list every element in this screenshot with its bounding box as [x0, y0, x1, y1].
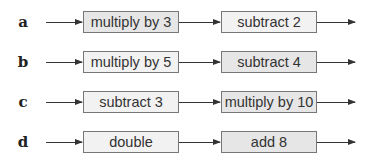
step2-box: multiply by 10 [221, 91, 317, 113]
row-label: c [16, 93, 30, 111]
step2-box: subtract 2 [221, 11, 317, 33]
connector-arrow-icon [179, 22, 220, 23]
input-arrow-icon [46, 102, 82, 103]
output-arrow-icon [317, 62, 355, 63]
output-arrow-icon [317, 142, 355, 143]
step2-box: subtract 4 [221, 51, 317, 73]
connector-arrow-icon [179, 102, 220, 103]
row-b: b multiply by 5 subtract 4 [0, 51, 374, 75]
row-c: c subtract 3 multiply by 10 [0, 91, 374, 115]
step2-box: add 8 [221, 131, 317, 153]
step1-box: multiply by 3 [83, 11, 179, 33]
row-label: a [16, 13, 30, 31]
output-arrow-icon [317, 102, 355, 103]
input-arrow-icon [46, 22, 82, 23]
step1-box: multiply by 5 [83, 51, 179, 73]
input-arrow-icon [46, 62, 82, 63]
row-d: d double add 8 [0, 131, 374, 155]
input-arrow-icon [46, 142, 82, 143]
connector-arrow-icon [179, 142, 220, 143]
step1-box: double [83, 131, 179, 153]
step1-box: subtract 3 [83, 91, 179, 113]
row-a: a multiply by 3 subtract 2 [0, 11, 374, 35]
connector-arrow-icon [179, 62, 220, 63]
output-arrow-icon [317, 22, 355, 23]
row-label: b [16, 53, 30, 71]
row-label: d [16, 133, 30, 151]
